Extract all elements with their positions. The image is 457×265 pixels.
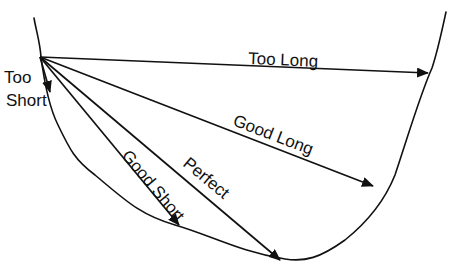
too-long-arrow	[40, 57, 428, 73]
perfect-arrow	[40, 57, 280, 260]
too-long-label: Too Long	[248, 49, 319, 71]
too-short-label-line2: Short	[6, 91, 47, 110]
bowl-curve	[34, 12, 446, 260]
too-short-label-line1: Too	[4, 68, 31, 87]
perfect-label: Perfect	[179, 154, 233, 203]
good-short-label: Good Short	[118, 146, 189, 225]
bowl-diagram: Too Short Too Long Good Long Perfect Goo…	[0, 0, 457, 265]
